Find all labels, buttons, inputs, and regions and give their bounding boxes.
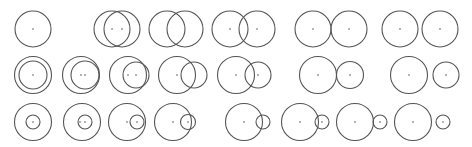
center-dot-icon (442, 121, 444, 123)
center-dot-icon (187, 121, 189, 123)
center-dot-icon (348, 28, 350, 30)
configuration-tangent-external (282, 104, 330, 141)
center-dot-icon (321, 121, 323, 123)
center-dot-icon (243, 121, 245, 123)
center-dot-icon (127, 74, 129, 76)
configuration-overlap-medium (149, 11, 203, 47)
center-dot-icon (32, 28, 34, 30)
configuration-separate (382, 11, 458, 47)
configuration-intersecting-a (159, 57, 208, 94)
center-dot-icon (111, 28, 113, 30)
configuration-concentric (15, 104, 52, 141)
center-dot-icon (399, 28, 401, 30)
circle-positions-diagram (0, 0, 472, 147)
row-medium-difference-radii (15, 57, 460, 94)
configuration-coincident (15, 11, 51, 47)
configuration-separate (391, 57, 460, 94)
configuration-separate-near (337, 104, 388, 141)
center-dot-icon (439, 28, 441, 30)
center-dot-icon (229, 28, 231, 30)
center-dot-icon (135, 74, 137, 76)
row-equal-radii (15, 11, 458, 47)
center-dot-icon (84, 121, 86, 123)
row-large-difference-radii (15, 104, 451, 141)
configuration-separate-far (395, 104, 451, 141)
center-dot-icon (235, 74, 237, 76)
center-dot-icon (379, 121, 381, 123)
configuration-tangent-external (300, 57, 364, 94)
center-dot-icon (349, 74, 351, 76)
center-dot-icon (408, 74, 410, 76)
circle-icon-secondary (181, 62, 207, 88)
configuration-concentric (15, 57, 52, 94)
center-dot-icon (79, 121, 81, 123)
configuration-intersecting-b (218, 57, 272, 94)
center-dot-icon (256, 28, 258, 30)
configuration-overlap-large (94, 11, 140, 47)
configuration-overlap-small (212, 11, 275, 47)
center-dot-icon (312, 28, 314, 30)
center-dot-icon (121, 28, 123, 30)
configuration-tangent-external (295, 11, 367, 47)
configuration-tangent-internal (109, 104, 146, 141)
center-dot-icon (84, 74, 86, 76)
circle-icon-primary (64, 104, 101, 141)
center-dot-icon (32, 121, 34, 123)
center-dot-icon (445, 74, 447, 76)
center-dot-icon (412, 121, 414, 123)
configuration-internal-contained (64, 104, 101, 141)
center-dot-icon (317, 74, 319, 76)
configuration-tangent-internal (110, 57, 150, 94)
center-dot-icon (257, 74, 259, 76)
center-dot-icon (80, 74, 82, 76)
configuration-intersecting-b (226, 104, 271, 141)
center-dot-icon (172, 121, 174, 123)
center-dot-icon (354, 121, 356, 123)
center-dot-icon (136, 121, 138, 123)
configuration-intersecting-a (155, 104, 196, 141)
center-dot-icon (32, 74, 34, 76)
center-dot-icon (299, 121, 301, 123)
center-dot-icon (176, 74, 178, 76)
center-dot-icon (126, 121, 128, 123)
configuration-internal-contained (63, 57, 100, 94)
